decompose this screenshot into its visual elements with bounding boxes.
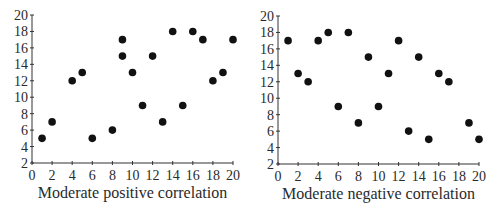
data-point bbox=[385, 70, 393, 78]
data-point bbox=[38, 135, 46, 143]
x-tick-label: 12 bbox=[392, 169, 406, 184]
x-axis-label: Moderate positive correlation bbox=[38, 184, 227, 202]
y-tick-label: 4 bbox=[21, 140, 28, 155]
x-tick-label: 18 bbox=[206, 168, 220, 183]
data-point bbox=[179, 102, 187, 110]
x-tick-label: 6 bbox=[89, 168, 96, 183]
scatter-charts: 024681012141618202468101214161820Moderat… bbox=[0, 0, 499, 210]
y-tick-label: 20 bbox=[260, 9, 274, 24]
scatter-plot-negative: 024681012141618202468101214161820Moderat… bbox=[260, 9, 486, 203]
y-tick-label: 12 bbox=[14, 74, 28, 89]
y-tick-label: 16 bbox=[14, 41, 28, 56]
data-point bbox=[475, 136, 483, 144]
data-point bbox=[465, 119, 473, 127]
y-tick-label: 18 bbox=[260, 25, 274, 40]
data-point bbox=[89, 135, 97, 143]
x-tick-label: 16 bbox=[432, 169, 446, 184]
data-point bbox=[169, 28, 177, 36]
x-tick-label: 20 bbox=[226, 168, 240, 183]
x-tick-label: 4 bbox=[315, 169, 322, 184]
y-tick-label: 4 bbox=[267, 141, 274, 156]
data-point bbox=[48, 118, 56, 126]
y-tick-label: 8 bbox=[267, 108, 274, 123]
data-point bbox=[109, 126, 117, 134]
data-point bbox=[294, 70, 302, 78]
x-tick-label: 0 bbox=[275, 169, 282, 184]
y-tick-label: 16 bbox=[260, 42, 274, 57]
y-tick-label: 6 bbox=[267, 124, 274, 139]
data-point bbox=[435, 70, 443, 78]
x-tick-label: 4 bbox=[69, 168, 76, 183]
data-point bbox=[119, 36, 127, 44]
x-tick-label: 8 bbox=[109, 168, 116, 183]
y-tick-label: 14 bbox=[14, 57, 28, 72]
y-tick-label: 10 bbox=[14, 90, 28, 105]
y-tick-label: 8 bbox=[21, 107, 28, 122]
data-point bbox=[284, 37, 292, 45]
y-tick-label: 12 bbox=[260, 75, 274, 90]
data-point bbox=[78, 69, 86, 77]
data-point bbox=[219, 69, 227, 77]
y-tick-label: 14 bbox=[260, 58, 274, 73]
data-point bbox=[324, 29, 332, 37]
data-point bbox=[149, 52, 157, 60]
x-tick-label: 2 bbox=[49, 168, 56, 183]
x-tick-label: 0 bbox=[29, 168, 36, 183]
y-tick-label: 2 bbox=[267, 157, 274, 172]
data-point bbox=[314, 37, 322, 45]
y-tick-label: 6 bbox=[21, 123, 28, 138]
data-point bbox=[68, 77, 76, 85]
y-tick-label: 10 bbox=[260, 91, 274, 106]
data-point bbox=[209, 77, 217, 85]
y-tick-label: 18 bbox=[14, 24, 28, 39]
data-point bbox=[229, 36, 237, 44]
x-tick-label: 10 bbox=[372, 169, 386, 184]
data-point bbox=[415, 53, 423, 61]
y-tick-label: 20 bbox=[14, 8, 28, 23]
data-point bbox=[345, 29, 353, 37]
data-point bbox=[405, 127, 413, 135]
data-point bbox=[355, 119, 363, 127]
scatter-plot-positive: 024681012141618202468101214161820Moderat… bbox=[14, 8, 240, 202]
data-point bbox=[119, 52, 127, 60]
data-point bbox=[199, 36, 207, 44]
data-point bbox=[375, 103, 383, 111]
x-tick-label: 8 bbox=[355, 169, 362, 184]
data-point bbox=[425, 136, 433, 144]
data-point bbox=[365, 53, 373, 61]
x-tick-label: 12 bbox=[146, 168, 160, 183]
data-point bbox=[129, 69, 137, 77]
x-tick-label: 10 bbox=[126, 168, 140, 183]
x-tick-label: 6 bbox=[335, 169, 342, 184]
x-tick-label: 14 bbox=[412, 169, 426, 184]
x-tick-label: 20 bbox=[472, 169, 486, 184]
x-tick-label: 18 bbox=[452, 169, 466, 184]
data-point bbox=[335, 103, 343, 111]
data-point bbox=[304, 78, 312, 86]
data-point bbox=[189, 28, 197, 36]
x-tick-label: 2 bbox=[295, 169, 302, 184]
x-tick-label: 16 bbox=[186, 168, 200, 183]
x-tick-label: 14 bbox=[166, 168, 180, 183]
data-point bbox=[395, 37, 403, 45]
data-point bbox=[159, 118, 167, 126]
x-axis-label: Moderate negative correlation bbox=[282, 185, 475, 203]
y-tick-label: 2 bbox=[21, 156, 28, 171]
data-point bbox=[445, 78, 453, 86]
data-point bbox=[139, 102, 147, 110]
